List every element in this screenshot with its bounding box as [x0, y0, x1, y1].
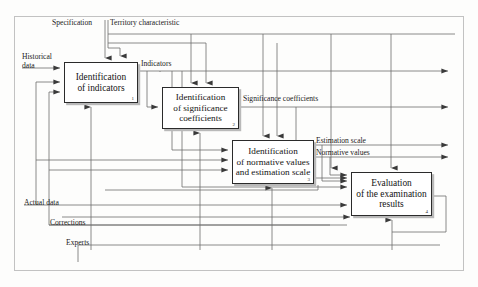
process-box-2-label: Identification of significance coefficie… [171, 92, 229, 123]
process-box-identification-of-indicators[interactable]: Identification of indicators 1 [64, 62, 138, 103]
process-box-4-number: 4 [426, 209, 429, 214]
flow-label-normative-values: Normative values [316, 148, 370, 157]
flow-label-historical-data: Historical data [22, 52, 52, 71]
process-box-4-label: Evaluation of the examination results [354, 178, 428, 210]
process-box-evaluation-of-examination-results[interactable]: Evaluation of the examination results 4 [351, 172, 432, 216]
process-flow-diagram: Identification of indicators 1 Identific… [0, 0, 478, 287]
process-box-1-label: Identification of indicators [74, 72, 129, 93]
flow-label-experts: Experts [66, 238, 89, 247]
flow-label-estimation-scale: Estimation scale [316, 136, 366, 145]
flow-label-corrections: Corrections [50, 218, 85, 227]
process-box-1-number: 1 [132, 96, 135, 101]
flow-label-specification: Specification [52, 18, 92, 27]
process-box-3-label: Identification of normative values and e… [234, 146, 313, 177]
process-box-2-number: 2 [233, 122, 236, 127]
flow-label-territory-characteristic: Territory characteristic [110, 18, 179, 27]
process-box-identification-of-normative-values[interactable]: Identification of normative values and e… [232, 140, 314, 184]
flow-label-actual-data: Actual data [24, 198, 59, 207]
process-box-identification-of-significance-coefficients[interactable]: Identification of significance coefficie… [162, 87, 239, 129]
flow-label-indicators: Indicators [141, 59, 171, 68]
flow-label-significance-coefficients: Significance coefficients [243, 94, 318, 103]
process-box-3-number: 3 [308, 177, 311, 182]
